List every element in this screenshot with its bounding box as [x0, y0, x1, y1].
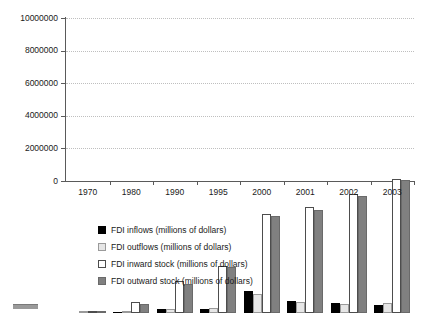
bar-outflows-2003	[383, 303, 392, 313]
x-tick-mark	[414, 181, 415, 185]
legend-label: FDI outward stock (millions of dollars)	[111, 276, 253, 286]
legend-item-fdi-outflows: FDI outflows (millions of dollars)	[98, 238, 338, 255]
x-tick-mark	[240, 181, 241, 185]
x-axis-tick-label: 1980	[110, 187, 154, 197]
gridline	[66, 116, 414, 117]
bar-outward-1980	[140, 304, 149, 313]
y-axis-tick-label: 6000000	[25, 79, 58, 88]
bar-inward-2003	[392, 179, 401, 313]
chart-legend: FDI inflows (millions of dollars) FDI ou…	[98, 221, 338, 289]
gray-square-icon	[98, 277, 106, 285]
bar-outflows-1990	[166, 309, 175, 313]
y-axis-tick-label: 2000000	[25, 144, 58, 153]
clipped-swatch-icon	[13, 304, 38, 309]
x-tick-mark	[327, 181, 328, 185]
bar-outflows-2000	[253, 294, 262, 313]
gridline	[66, 18, 414, 19]
bar-outward-2002	[358, 196, 367, 313]
bar-inflows-1990	[157, 309, 166, 313]
bar-outward-2003	[401, 180, 410, 313]
x-axis-tick-label: 2001	[284, 187, 328, 197]
y-tick-mark	[61, 83, 66, 84]
bar-group-2003	[371, 150, 415, 313]
y-axis-tick-label: 4000000	[25, 111, 58, 120]
gridline	[66, 83, 414, 84]
x-axis-tick-label: 2002	[327, 187, 371, 197]
bar-inward-1980	[131, 302, 140, 313]
bar-outflows-2001	[296, 302, 305, 313]
x-tick-mark	[197, 181, 198, 185]
x-tick-mark	[284, 181, 285, 185]
x-tick-mark	[371, 181, 372, 185]
legend-item-fdi-inward-stock: FDI inward stock (millions of dollars)	[98, 255, 338, 272]
white-square-icon	[98, 260, 106, 268]
x-axis-tick-label: 2000	[240, 187, 284, 197]
bar-inflows-2003	[374, 305, 383, 313]
bar-inflows-2000	[244, 291, 253, 313]
bar-inflows-2002	[331, 303, 340, 313]
legend-item-fdi-inflows: FDI inflows (millions of dollars)	[98, 221, 338, 238]
y-tick-mark	[61, 18, 66, 19]
x-axis-tick-label: 1970	[66, 187, 110, 197]
y-axis-tick-label: 10000000	[20, 14, 58, 23]
black-filled-square-icon	[98, 226, 106, 234]
x-tick-mark	[153, 181, 154, 185]
legend-item-fdi-outward-stock: FDI outward stock (millions of dollars)	[98, 272, 338, 289]
bar-inflows-1995	[200, 309, 209, 313]
bar-inflows-2001	[287, 301, 296, 313]
bar-outflows-2002	[340, 304, 349, 313]
gridline	[66, 51, 414, 52]
y-axis-tick-label: 8000000	[25, 46, 58, 55]
x-tick-mark	[110, 181, 111, 185]
x-axis-tick-label: 1995	[197, 187, 241, 197]
x-axis-tick-label: 1990	[153, 187, 197, 197]
y-axis-tick-label: 0	[53, 177, 58, 186]
x-axis-tick-label: 2003	[371, 187, 415, 197]
legend-label: FDI inward stock (millions of dollars)	[111, 259, 248, 269]
bar-outflows-1995	[209, 308, 218, 313]
bar-inward-2002	[349, 194, 358, 313]
y-tick-mark	[61, 51, 66, 52]
fdi-bar-chart: 10000000 8000000 6000000 4000000 2000000…	[0, 0, 423, 313]
legend-label: FDI inflows (millions of dollars)	[111, 225, 226, 235]
light-gray-square-icon	[98, 243, 106, 251]
y-tick-mark	[61, 116, 66, 117]
legend-label: FDI outflows (millions of dollars)	[111, 242, 231, 252]
